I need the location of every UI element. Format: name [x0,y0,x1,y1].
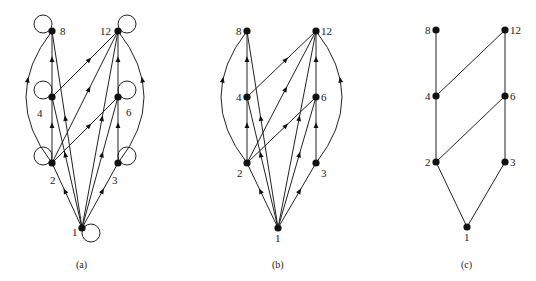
node-label-1: 1 [72,226,78,238]
arrowhead-icon [245,56,250,62]
edge-1-4 [52,97,82,228]
node-label-1: 1 [464,231,470,243]
arrowhead-icon [116,122,121,128]
node-3 [312,159,319,166]
edge-1-3 [278,163,316,228]
edge-2-6 [247,97,316,163]
node-label-4: 4 [425,90,431,102]
node-label-1: 1 [275,232,281,244]
node-1 [463,223,470,230]
node-label-12: 12 [510,24,521,36]
edge-2-6 [436,96,505,162]
edge-4-12 [436,30,505,96]
arrowhead-icon [296,115,301,121]
edge-1-6 [82,97,118,228]
arrowhead-icon [314,56,319,62]
node-2 [243,159,250,166]
arrowhead-icon [314,122,319,128]
arrowhead-icon [245,122,250,128]
node-label-2: 2 [237,167,243,179]
node-label-8: 8 [60,25,66,37]
arrowhead-icon [63,152,68,158]
panel-c-hasse-diagram: 81246231 [425,24,521,243]
node-12 [114,27,121,34]
node-4 [48,93,55,100]
divisibility-figure: 81246231 81246231 81246231 (a) (b) (c) [0,0,536,281]
node-4 [243,93,250,100]
arrowhead-icon [140,77,145,83]
node-8 [243,27,250,34]
edge-1-4 [247,97,278,228]
node-6 [114,93,121,100]
node-label-3: 3 [510,156,516,168]
edge-1-8 [247,31,278,228]
panel-a-digraph: 81246231 [25,15,145,242]
node-label-4: 4 [37,107,43,119]
edge-2-6 [52,97,118,163]
node-6 [501,92,508,99]
node-8 [432,26,439,33]
caption-b: (b) [272,259,284,271]
arrowhead-icon [99,152,104,158]
edge-1-3 [467,162,505,227]
node-3 [501,158,508,165]
edge-1-8 [52,31,82,228]
node-12 [501,26,508,33]
node-label-3: 3 [321,167,327,179]
node-label-6: 6 [510,90,516,102]
arrowhead-icon [25,77,30,83]
node-6 [312,93,319,100]
node-label-2: 2 [50,174,56,186]
edge-1-2 [436,162,467,227]
panel-b-digraph-no-loops: 81246231 [220,25,343,244]
arrowhead-icon [50,122,55,128]
caption-a: (a) [76,259,87,271]
node-label-8: 8 [425,24,431,36]
arrowhead-icon [296,188,301,194]
node-label-2: 2 [425,156,431,168]
node-label-4: 4 [236,91,242,103]
node-label-8: 8 [236,25,242,37]
node-12 [312,27,319,34]
node-1 [78,224,85,231]
arrowhead-icon [63,115,68,121]
node-1 [274,224,281,231]
arrowhead-icon [64,188,69,194]
node-label-12: 12 [321,25,332,37]
edge-1-3 [82,163,118,228]
node-label-6: 6 [321,91,327,103]
caption-c: (c) [461,259,472,271]
node-label-12: 12 [100,25,111,37]
arrowhead-icon [99,115,104,121]
node-4 [432,92,439,99]
arrowhead-icon [50,56,55,62]
node-3 [114,159,121,166]
node-label-3: 3 [112,174,118,186]
node-2 [432,158,439,165]
edge-1-6 [278,97,316,228]
edge-2-8 [221,31,247,163]
arrowhead-icon [259,115,264,121]
arrowhead-icon [296,152,301,158]
edge-3-12 [316,31,342,163]
arrowhead-icon [338,77,343,83]
node-8 [48,27,55,34]
arrowhead-icon [116,56,121,62]
node-2 [48,159,55,166]
node-label-6: 6 [126,106,132,118]
arrowhead-icon [220,77,225,83]
